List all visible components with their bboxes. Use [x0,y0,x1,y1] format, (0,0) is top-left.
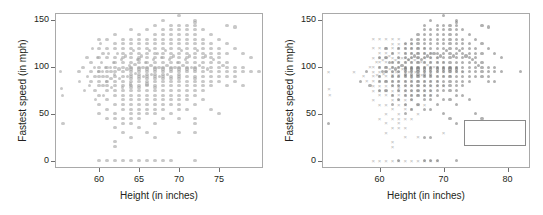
data-point-female: × [383,102,389,108]
data-point-male [461,28,464,31]
data-point-all [153,108,156,111]
data-point-all [153,56,156,59]
data-point-all [241,52,244,55]
data-point-all [89,80,92,83]
data-point-male [436,33,439,36]
data-point-all [113,159,116,162]
data-point-female: × [370,97,376,103]
data-point-all [209,47,212,50]
data-point-all [225,42,228,45]
data-point-all [153,94,156,97]
data-point-male [429,108,432,111]
data-point-all [145,89,148,92]
data-point-male [436,159,439,162]
y-tick-mark [318,161,322,162]
data-point-male [468,61,471,64]
data-point-all [209,33,212,36]
data-point-male [442,80,445,83]
data-point-all [81,66,84,69]
data-point-all [169,42,172,45]
data-point-all [165,64,168,67]
data-point-all [217,80,220,83]
data-point-all [164,49,167,52]
data-point-male [455,61,458,64]
data-point-all [161,98,164,101]
data-point-male [404,75,407,78]
data-point-all [145,98,148,101]
data-point-all [185,108,188,111]
data-point-male [468,47,471,50]
x-tick-label: 80 [499,174,517,184]
data-point-male [455,159,458,162]
data-point-all [233,66,236,69]
data-point-all [105,56,108,59]
data-point-all [209,108,212,111]
data-point-male [480,70,483,73]
data-point-male [410,94,413,97]
data-point-all [225,66,228,69]
data-point-all [113,94,116,97]
data-point-all [121,98,124,101]
data-point-all [97,80,100,83]
data-point-male [327,122,330,125]
data-point-male [442,14,445,17]
data-point-male [480,66,483,69]
data-point-all [217,38,220,41]
data-point-all [249,56,252,59]
data-point-male [442,98,445,101]
data-point-all [94,98,97,101]
data-point-all [233,47,236,50]
data-point-male [410,108,413,111]
data-point-male [416,103,419,106]
data-point-all [121,70,124,73]
data-point-male [455,42,458,45]
x-axis-label-left: Height (in inches) [55,190,263,201]
data-point-male [455,24,458,27]
data-point-male [474,38,477,41]
data-point-all [113,47,116,50]
data-point-all [113,112,116,115]
data-point-female: × [370,36,376,42]
data-point-all [113,89,116,92]
data-point-all [177,38,180,41]
data-point-all [141,66,144,69]
data-point-female: × [402,134,408,140]
data-point-all [121,108,124,111]
data-point-male [391,103,394,106]
data-point-all [241,66,244,69]
data-point-all [161,80,164,83]
data-point-male [480,61,483,64]
data-point-all [97,66,100,69]
data-point-all [233,75,236,78]
data-point-female: × [402,116,408,122]
data-point-all [177,80,180,83]
data-point-all [109,66,112,69]
data-point-male [391,61,394,64]
data-point-male [442,89,445,92]
data-point-all [153,122,156,125]
data-point-all [97,84,100,87]
data-point-all [117,67,120,70]
data-point-all [116,52,119,55]
data-point-male [455,56,458,59]
data-point-all [97,56,100,59]
data-point-male [391,80,394,83]
data-point-male [436,80,439,83]
data-point-all [185,84,188,87]
data-point-female: × [409,158,415,164]
data-point-male [429,28,432,31]
data-point-all [169,103,172,106]
data-point-all [113,61,116,64]
x-axis-label-right: Height (in inches) [322,190,530,201]
data-point-all [201,42,204,45]
data-point-male [404,80,407,83]
data-point-all [161,108,164,111]
data-point-male [429,98,432,101]
data-point-all [153,112,156,115]
data-point-all [97,38,100,41]
data-point-female: × [370,88,376,94]
data-point-all [85,56,88,59]
data-point-all [99,42,102,45]
data-point-all [145,159,148,162]
data-point-male [410,38,413,41]
